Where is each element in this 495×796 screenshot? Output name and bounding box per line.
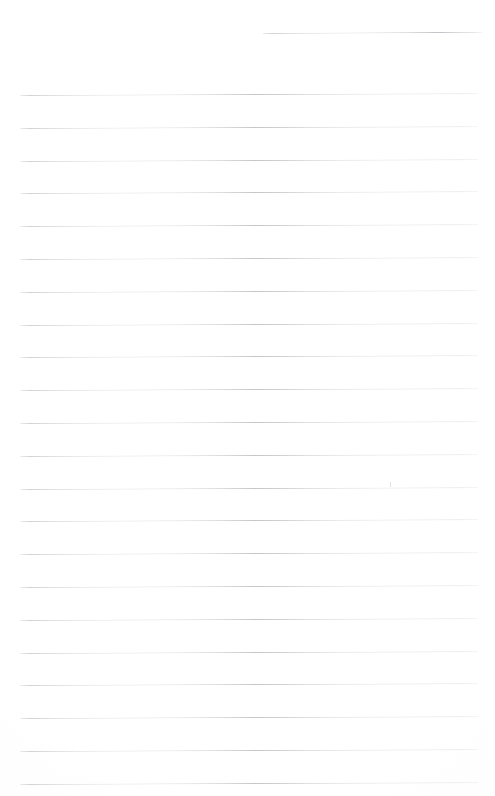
ruled-line — [20, 716, 478, 719]
ruled-line — [20, 126, 478, 129]
ruled-line — [20, 552, 478, 555]
ruled-line — [20, 421, 478, 424]
lined-paper-page — [0, 0, 495, 796]
ruled-line — [20, 159, 478, 162]
ruled-line — [20, 257, 478, 260]
ruled-line — [20, 749, 478, 752]
header-rule — [263, 32, 483, 34]
ruled-line — [20, 356, 478, 359]
ruled-line — [20, 684, 478, 687]
ruled-line — [20, 93, 478, 96]
ruled-line — [20, 224, 478, 227]
ruled-line — [20, 651, 478, 654]
ruled-line — [20, 585, 478, 588]
ruled-line — [20, 323, 478, 326]
paper-surface — [0, 0, 495, 796]
ruled-line — [20, 618, 478, 621]
ruled-line — [20, 487, 478, 490]
ruled-line — [20, 192, 478, 195]
ruled-line — [20, 388, 478, 391]
ruled-line — [20, 290, 478, 293]
ruled-line — [20, 782, 478, 785]
faint-tick-mark — [390, 482, 391, 487]
ruled-line — [20, 454, 478, 457]
ruled-line — [20, 520, 478, 523]
